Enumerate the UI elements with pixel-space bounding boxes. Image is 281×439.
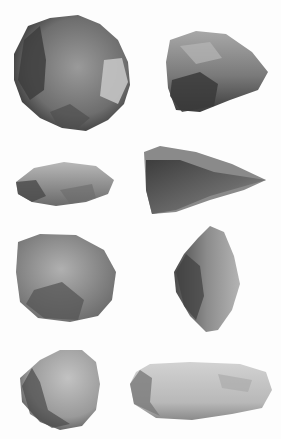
artifact-8: [130, 362, 272, 420]
artifact-7: [20, 350, 100, 430]
artifact-3: [16, 162, 114, 206]
stone-tools-plate: [0, 0, 281, 439]
artifact-6: [174, 226, 240, 332]
artifact-1: [14, 15, 130, 131]
artifact-5: [16, 234, 116, 322]
artifact-2: [166, 31, 268, 112]
artifact-4: [144, 146, 266, 214]
artifacts-illustration: [0, 0, 281, 439]
